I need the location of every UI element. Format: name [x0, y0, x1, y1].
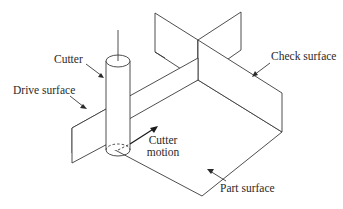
drive-surface-leader	[70, 96, 84, 107]
label-cutter-motion-line2: motion	[141, 146, 185, 158]
machining-surfaces-diagram	[0, 0, 343, 209]
cutter-leader	[86, 64, 102, 76]
label-part-surface: Part surface	[220, 182, 275, 194]
label-cutter: Cutter	[54, 53, 83, 65]
label-check-surface: Check surface	[271, 50, 336, 62]
label-cutter-motion-line1: Cutter	[141, 134, 185, 146]
label-drive-surface: Drive surface	[13, 84, 75, 96]
cutter-body	[106, 61, 130, 150]
